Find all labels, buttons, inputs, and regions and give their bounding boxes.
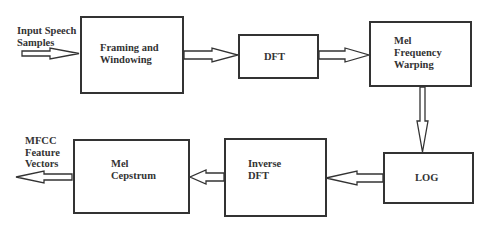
block-label: DFT	[264, 51, 285, 63]
block-label: Framing and Windowing	[100, 42, 159, 66]
arrow-input-to-framing	[22, 48, 79, 59]
block-mel-frequency-warping: Mel Frequency Warping	[369, 21, 472, 87]
block-framing-windowing: Framing and Windowing	[80, 16, 184, 94]
block-label: Mel Cepstrum	[111, 158, 156, 182]
arrow-mel-warping-to-log	[417, 87, 428, 152]
input-speech-samples-label: Input Speech Samples	[17, 25, 76, 48]
arrow-mel-cepstrum-to-output	[16, 171, 72, 183]
mfcc-feature-vectors-label: MFCC Feature Vectors	[25, 135, 60, 170]
block-inverse-dft: Inverse DFT	[224, 138, 327, 217]
block-mel-cepstrum: Mel Cepstrum	[73, 139, 190, 214]
block-log: LOG	[383, 152, 474, 204]
arrow-log-to-inverse-dft	[326, 171, 383, 185]
block-label: LOG	[415, 172, 438, 184]
arrow-inverse-dft-to-mel-cepstrum	[190, 170, 224, 184]
block-dft: DFT	[238, 34, 319, 79]
block-label: Mel Frequency Warping	[394, 35, 442, 71]
arrow-dft-to-mel-warping	[319, 48, 369, 62]
block-label: Inverse DFT	[248, 158, 281, 182]
arrow-framing-to-dft	[184, 48, 238, 62]
